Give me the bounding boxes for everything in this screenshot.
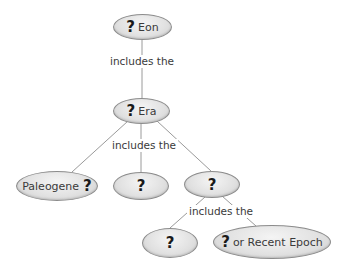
- link-label-period-epochs: includes the: [187, 205, 255, 218]
- question-mark-icon: ?: [126, 18, 135, 36]
- link-label-eon-era: includes the: [108, 55, 176, 68]
- question-mark-icon: ?: [83, 177, 92, 195]
- node-era-label: Era: [138, 105, 156, 118]
- question-mark-icon: ?: [221, 233, 230, 251]
- node-paleogene-label: Paleogene: [22, 180, 79, 193]
- question-mark-icon: ?: [166, 234, 175, 252]
- node-paleogene: Paleogene ?: [16, 171, 98, 201]
- node-epoch-2-label: or Recent Epoch: [233, 236, 323, 249]
- question-mark-icon: ?: [208, 176, 217, 194]
- node-eon-label: Eon: [138, 21, 159, 34]
- question-mark-icon: ?: [137, 177, 146, 195]
- question-mark-icon: ?: [127, 102, 136, 120]
- node-eon: ? Eon: [113, 14, 172, 40]
- node-era-child-3: ?: [184, 171, 240, 198]
- node-era-child-2: ?: [113, 172, 169, 200]
- node-epoch-2: ? or Recent Epoch: [213, 225, 331, 259]
- node-era: ? Era: [113, 98, 170, 124]
- node-epoch-1: ?: [142, 228, 198, 258]
- link-label-era-children: includes the: [110, 139, 178, 152]
